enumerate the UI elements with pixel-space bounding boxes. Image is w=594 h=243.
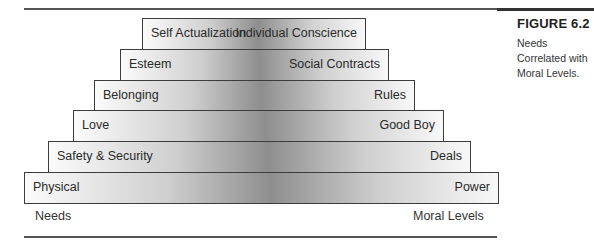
moral-level-label: Power — [455, 173, 490, 202]
need-label: Esteem — [129, 50, 171, 79]
step-belonging: Belonging Rules — [94, 80, 415, 111]
step-love: Love Good Boy — [73, 110, 444, 142]
moral-level-label: Good Boy — [379, 111, 435, 140]
need-label: Safety & Security — [57, 142, 153, 171]
bottom-rule — [24, 236, 497, 238]
moral-levels-axis-label: Moral Levels — [413, 209, 484, 223]
moral-level-label: Individual Conscience — [235, 19, 357, 48]
figure-caption: Needs Correlated with Moral Levels. — [517, 36, 594, 81]
need-label: Belonging — [103, 81, 159, 110]
moral-level-label: Deals — [430, 142, 462, 171]
top-rule — [24, 8, 497, 10]
moral-level-label: Rules — [374, 81, 406, 110]
step-esteem: Esteem Social Contracts — [120, 49, 389, 81]
figure-header-rule — [497, 8, 594, 11]
step-physical: Physical Power — [24, 172, 499, 204]
step-safety-security: Safety & Security Deals — [48, 141, 471, 173]
moral-level-label: Social Contracts — [289, 50, 380, 79]
need-label: Love — [82, 111, 109, 140]
need-label: Self Actualization — [151, 19, 246, 48]
figure-title: FIGURE 6.2 — [517, 16, 590, 31]
need-label: Physical — [33, 173, 80, 202]
needs-axis-label: Needs — [35, 209, 71, 223]
step-self-actualization: Self Actualization Individual Conscience — [142, 18, 366, 50]
